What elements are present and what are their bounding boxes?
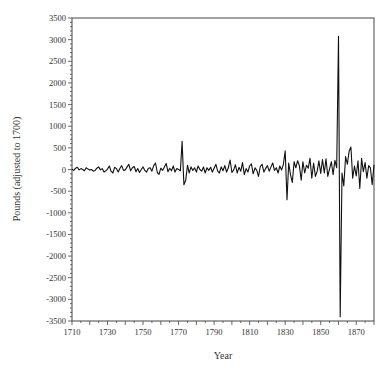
x-tick-label: 1810	[241, 327, 258, 337]
y-tick-label: -2000	[46, 251, 66, 261]
x-tick-label: 1830	[277, 327, 294, 337]
y-tick-label: 2500	[49, 56, 66, 66]
y-tick-label: 3000	[49, 35, 66, 45]
x-tick-label: 1850	[312, 327, 329, 337]
y-tick-label: -1000	[46, 208, 66, 218]
x-axis: 171017301750177017901810183018501870	[64, 321, 375, 337]
x-tick-label: 1870	[348, 327, 365, 337]
y-tick-label: -500	[50, 186, 66, 196]
y-tick-label: 500	[53, 143, 66, 153]
y-tick-label: 3500	[49, 13, 66, 23]
y-tick-label: -2500	[46, 273, 66, 283]
y-tick-label: -3000	[46, 294, 66, 304]
y-tick-label: 2000	[49, 78, 66, 88]
x-tick-label: 1730	[99, 327, 116, 337]
y-tick-label: -3500	[46, 316, 66, 326]
y-tick-label: -1500	[46, 229, 66, 239]
y-axis: 3500300025002000150010005000-500-1000-15…	[46, 13, 72, 326]
y-tick-label: 1000	[49, 121, 66, 131]
data-line	[72, 36, 374, 317]
x-tick-label: 1790	[206, 327, 223, 337]
y-tick-label: 0	[62, 165, 66, 175]
y-axis-title: Pounds (adjusted to 1700)	[11, 117, 23, 222]
line-chart: 3500300025002000150010005000-500-1000-15…	[0, 0, 389, 374]
y-tick-label: 1500	[49, 100, 66, 110]
x-tick-label: 1750	[135, 327, 152, 337]
x-tick-label: 1710	[64, 327, 81, 337]
x-axis-title: Year	[214, 350, 233, 361]
x-tick-label: 1770	[170, 327, 187, 337]
